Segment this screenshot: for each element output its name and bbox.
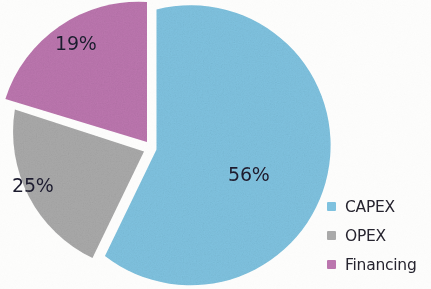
legend-item-capex[interactable]: CAPEX bbox=[327, 192, 431, 221]
legend-swatch-opex bbox=[327, 231, 336, 240]
slice-label-capex: 56% bbox=[228, 163, 270, 185]
legend-item-opex[interactable]: OPEX bbox=[327, 221, 431, 250]
legend-label-opex: OPEX bbox=[345, 227, 386, 245]
pie-chart: 56% 25% 19% CAPEX OPEX Financing bbox=[0, 0, 431, 289]
slice-label-financing: 19% bbox=[55, 32, 97, 54]
slice-label-opex: 25% bbox=[12, 174, 54, 196]
legend-label-financing: Financing bbox=[345, 256, 416, 274]
legend-item-financing[interactable]: Financing bbox=[327, 250, 431, 279]
legend-swatch-capex bbox=[327, 202, 336, 211]
chart-legend: CAPEX OPEX Financing bbox=[327, 192, 431, 279]
legend-swatch-financing bbox=[327, 260, 336, 269]
legend-label-capex: CAPEX bbox=[345, 198, 395, 216]
